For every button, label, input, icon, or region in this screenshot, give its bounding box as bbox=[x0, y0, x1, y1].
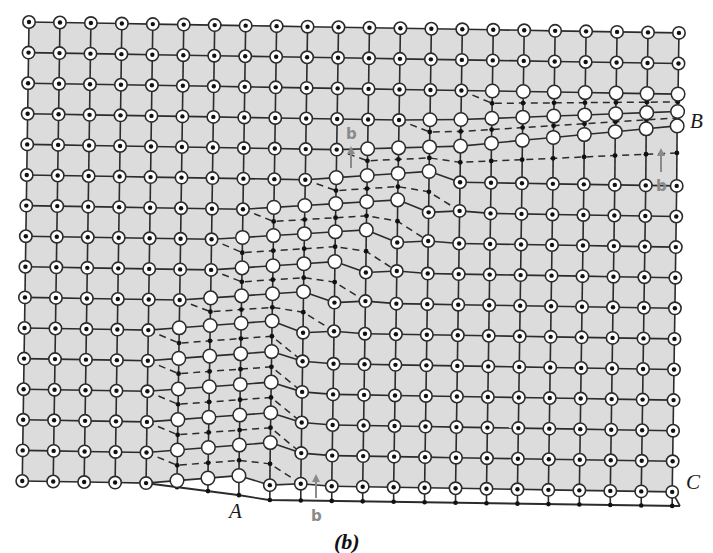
atom-core-dot bbox=[273, 146, 277, 150]
surface-atom-dot bbox=[453, 500, 458, 505]
atom-core-dot bbox=[423, 424, 427, 428]
atom-core-dot bbox=[330, 423, 334, 427]
atom-core-dot bbox=[609, 397, 613, 401]
atom-core-dot bbox=[612, 244, 616, 248]
open-atom-circle-icon bbox=[202, 441, 216, 455]
atom-core-dot bbox=[299, 481, 303, 485]
half-plane-atom-dot bbox=[271, 248, 276, 253]
half-plane-atom-dot bbox=[239, 279, 244, 284]
atom-core-dot bbox=[363, 299, 367, 303]
open-atom-circle-icon bbox=[233, 408, 247, 422]
atom-core-dot bbox=[517, 395, 521, 399]
atom-core-dot bbox=[579, 396, 583, 400]
half-plane-atom-dot bbox=[426, 189, 431, 194]
open-atom-circle-icon bbox=[391, 167, 405, 181]
atom-core-dot bbox=[303, 177, 307, 181]
open-atom-circle-icon bbox=[670, 119, 684, 133]
atom-core-dot bbox=[85, 296, 89, 300]
atom-core-dot bbox=[181, 53, 185, 57]
half-plane-atom-dot bbox=[614, 100, 619, 105]
open-atom-circle-icon bbox=[392, 141, 406, 155]
atom-core-dot bbox=[150, 52, 154, 56]
atom-core-dot bbox=[397, 87, 401, 91]
half-plane-atom-dot bbox=[237, 458, 242, 463]
atom-core-dot bbox=[580, 305, 584, 309]
atom-core-dot bbox=[21, 448, 25, 452]
atom-core-dot bbox=[54, 265, 58, 269]
atom-core-dot bbox=[640, 459, 644, 463]
atom-core-dot bbox=[488, 242, 492, 246]
open-atom-circle-icon bbox=[360, 195, 374, 209]
atom-core-dot bbox=[335, 86, 339, 90]
atom-core-dot bbox=[120, 21, 124, 25]
atom-core-dot bbox=[549, 273, 553, 277]
label-A: A bbox=[227, 499, 242, 523]
atom-core-dot bbox=[58, 20, 62, 24]
open-atom-circle-icon bbox=[485, 136, 499, 150]
atom-core-dot bbox=[87, 143, 91, 147]
half-plane-atom-dot bbox=[427, 130, 432, 135]
atom-core-dot bbox=[578, 427, 582, 431]
half-plane-atom-dot bbox=[301, 310, 306, 315]
half-plane-atom-dot bbox=[520, 125, 525, 130]
atom-core-dot bbox=[548, 396, 552, 400]
atom-core-dot bbox=[180, 114, 184, 118]
open-atom-circle-icon bbox=[297, 257, 311, 271]
open-atom-circle-icon bbox=[423, 113, 437, 127]
atom-core-dot bbox=[56, 112, 60, 116]
atom-core-dot bbox=[456, 333, 460, 337]
atom-core-dot bbox=[179, 175, 183, 179]
half-plane-atom-dot bbox=[208, 338, 213, 343]
surface-atom-dot bbox=[670, 504, 675, 509]
atom-core-dot bbox=[88, 51, 92, 55]
atom-core-dot bbox=[486, 364, 490, 368]
half-plane-atom-dot bbox=[239, 336, 244, 341]
half-plane-atom-dot bbox=[206, 460, 211, 465]
atom-core-dot bbox=[146, 358, 150, 362]
atom-core-dot bbox=[299, 451, 303, 455]
atom-core-dot bbox=[645, 61, 649, 65]
atom-core-dot bbox=[391, 485, 395, 489]
atom-core-dot bbox=[150, 83, 154, 87]
atom-core-dot bbox=[211, 115, 215, 119]
atom-core-dot bbox=[547, 426, 551, 430]
atom-core-dot bbox=[148, 205, 152, 209]
open-atom-circle-icon bbox=[516, 110, 530, 124]
half-plane-atom-dot bbox=[675, 151, 680, 156]
atom-core-dot bbox=[550, 243, 554, 247]
atom-core-dot bbox=[330, 484, 334, 488]
half-plane-atom-dot bbox=[364, 213, 369, 218]
surface-atom-dot bbox=[360, 499, 365, 504]
open-atom-circle-icon bbox=[235, 261, 249, 275]
atom-core-dot bbox=[26, 81, 30, 85]
half-plane-atom-dot bbox=[206, 430, 211, 435]
atom-core-dot bbox=[460, 27, 464, 31]
atom-core-dot bbox=[20, 479, 24, 483]
atom-core-dot bbox=[56, 143, 60, 147]
atom-core-dot bbox=[181, 84, 185, 88]
open-atom-circle-icon bbox=[454, 139, 468, 153]
half-plane-atom-dot bbox=[177, 341, 182, 346]
atom-core-dot bbox=[517, 365, 521, 369]
open-atom-circle-icon bbox=[360, 223, 374, 237]
atom-core-dot bbox=[519, 242, 523, 246]
atom-core-dot bbox=[455, 394, 459, 398]
atom-core-dot bbox=[394, 332, 398, 336]
atom-core-dot bbox=[642, 275, 646, 279]
atom-core-dot bbox=[675, 184, 679, 188]
atom-core-dot bbox=[422, 486, 426, 490]
atom-core-dot bbox=[643, 244, 647, 248]
atom-core-dot bbox=[484, 487, 488, 491]
atom-core-dot bbox=[332, 329, 336, 333]
half-plane-atom-dot bbox=[269, 395, 274, 400]
atom-core-dot bbox=[21, 418, 25, 422]
half-plane-atom-dot bbox=[489, 127, 494, 132]
atom-core-dot bbox=[614, 60, 618, 64]
atom-core-dot bbox=[640, 397, 644, 401]
atom-core-dot bbox=[641, 336, 645, 340]
atom-core-dot bbox=[85, 266, 89, 270]
atom-core-dot bbox=[615, 30, 619, 34]
open-atom-circle-icon bbox=[203, 319, 217, 333]
atom-core-dot bbox=[581, 213, 585, 217]
open-atom-circle-icon bbox=[232, 469, 246, 483]
